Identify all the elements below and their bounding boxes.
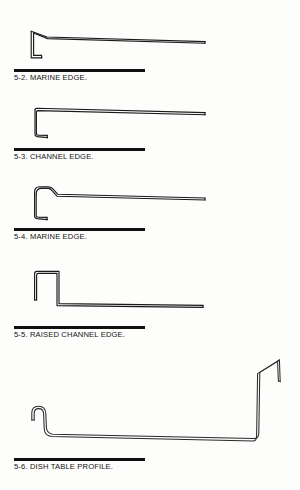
figure-5-4: 5-4. MARINE EDGE. bbox=[0, 175, 300, 255]
figure-5-3-rule bbox=[14, 148, 145, 151]
reference-plate: 5-2. MARINE EDGE. 5-3. CHANNEL EDGE. bbox=[0, 0, 300, 490]
figure-5-2-caption: 5-2. MARINE EDGE. bbox=[14, 74, 87, 82]
figure-5-4-rule bbox=[14, 228, 145, 231]
figure-5-5: 5-5. RAISED CHANNEL EDGE. bbox=[0, 255, 300, 353]
figure-5-4-drawing bbox=[0, 175, 300, 255]
figure-5-2: 5-2. MARINE EDGE. bbox=[0, 0, 300, 95]
figure-5-3-caption: 5-3. CHANNEL EDGE. bbox=[14, 153, 94, 161]
figure-5-5-rule bbox=[14, 326, 145, 329]
figure-5-6: 5-6. DISH TABLE PROFILE. bbox=[0, 353, 300, 490]
figure-5-4-caption: 5-4. MARINE EDGE. bbox=[14, 233, 87, 241]
figure-5-3-drawing bbox=[0, 95, 300, 175]
figure-5-2-rule bbox=[14, 69, 145, 72]
figure-5-6-rule bbox=[14, 458, 145, 461]
figure-5-3: 5-3. CHANNEL EDGE. bbox=[0, 95, 300, 175]
figure-5-6-caption: 5-6. DISH TABLE PROFILE. bbox=[14, 463, 113, 471]
figure-5-5-caption: 5-5. RAISED CHANNEL EDGE. bbox=[14, 331, 125, 339]
